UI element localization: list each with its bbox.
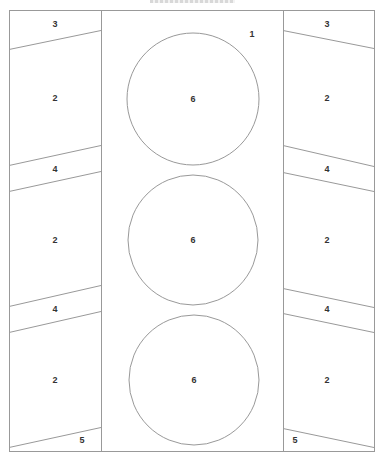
region-label-2: 2	[52, 236, 57, 245]
slanted-divider-left	[9, 146, 101, 166]
outer-border	[10, 11, 375, 452]
region-label-4: 4	[324, 305, 329, 314]
region-label-3: 3	[52, 20, 57, 29]
region-label-2: 2	[52, 376, 57, 385]
region-label-2: 2	[52, 94, 57, 103]
region-label-6: 6	[190, 95, 195, 104]
region-label-4: 4	[324, 165, 329, 174]
region-label-4: 4	[52, 165, 57, 174]
slanted-divider-left	[9, 172, 101, 192]
layout-diagram	[0, 0, 384, 460]
region-label-5: 5	[292, 436, 297, 445]
slanted-divider-right	[283, 173, 374, 192]
region-label-2: 2	[324, 376, 329, 385]
region-label-5: 5	[79, 436, 84, 445]
slanted-divider-left	[9, 31, 101, 50]
region-label-6: 6	[190, 236, 195, 245]
region-label-1: 1	[249, 30, 254, 39]
slanted-divider-left	[9, 312, 101, 333]
region-label-2: 2	[324, 236, 329, 245]
region-label-4: 4	[52, 305, 57, 314]
region-label-2: 2	[324, 94, 329, 103]
slanted-divider-left	[9, 428, 101, 448]
diagram-structure	[9, 10, 375, 452]
slanted-divider-right	[283, 314, 374, 333]
region-label-6: 6	[191, 376, 196, 385]
slanted-divider-right	[283, 31, 374, 49]
region-label-3: 3	[324, 20, 329, 29]
